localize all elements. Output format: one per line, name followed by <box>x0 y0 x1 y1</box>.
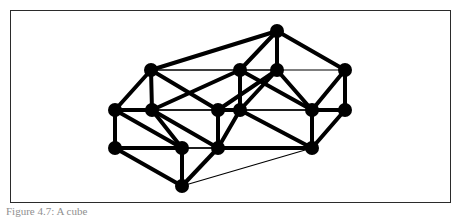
figure-caption: Figure 4.7: A cube <box>6 206 306 217</box>
figure-frame-border <box>10 10 451 203</box>
figure-container: Figure 4.7: A cube <box>0 0 460 217</box>
